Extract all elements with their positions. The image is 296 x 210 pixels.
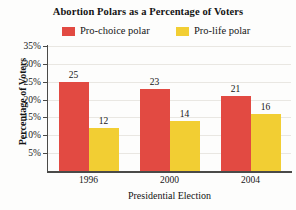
chart-title: Abortion Polars as a Percentage of Voter… [0,6,296,18]
x-axis-tick-label: 1996 [48,175,129,186]
bar [89,128,119,171]
bar [170,121,200,171]
legend-swatch-icon [62,27,75,36]
bar-series-group: 251223142116 [48,46,291,171]
x-axis-title: Presidential Election [48,190,291,202]
bar-value-label: 12 [89,116,119,126]
legend-swatch-icon [176,27,189,36]
bar [251,114,281,171]
bar [140,89,170,171]
y-axis-tick-mark [43,153,48,154]
bar-value-label: 16 [251,102,281,112]
bar-value-label: 25 [59,70,89,80]
legend-label: Pro-life polar [194,25,250,37]
y-axis-tick-mark [43,117,48,118]
bar [59,82,89,171]
y-axis-tick-mark [43,46,48,47]
chart-legend: Pro-choice polarPro-life polar [55,24,275,38]
y-axis-tick-mark [43,82,48,83]
bar-chart-figure: Abortion Polars as a Percentage of Voter… [0,0,296,210]
bar-value-label: 14 [170,109,200,119]
bar [221,96,251,171]
bar-value-label: 23 [140,77,170,87]
x-axis-line [47,171,292,173]
y-axis-tick-mark [43,100,48,101]
x-axis-tick-label: 2004 [210,175,291,186]
legend-label: Pro-choice polar [80,25,150,37]
legend-entry-pro-choice: Pro-choice polar [62,24,150,38]
y-axis-tick-mark [43,64,48,65]
y-axis-title: Percentage of Voters [17,32,28,172]
x-axis-tick-label: 2000 [129,175,210,186]
bar-value-label: 21 [221,84,251,94]
legend-entry-pro-life: Pro-life polar [176,24,250,38]
x-axis-tick-labels: 199620002004 [48,175,291,187]
y-axis-tick-mark [43,135,48,136]
